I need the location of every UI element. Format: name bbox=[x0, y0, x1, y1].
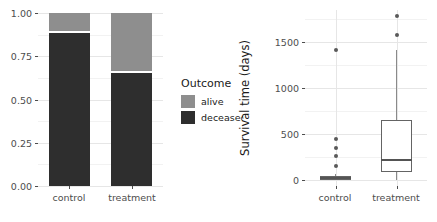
box-ytick-mark bbox=[302, 134, 305, 135]
bar-gridline-major bbox=[38, 186, 163, 187]
boxplot-xtick-label-treatment: treatment bbox=[372, 192, 420, 203]
box-ytick-label: 1500 bbox=[275, 37, 299, 48]
boxplot-group-control[interactable] bbox=[320, 10, 352, 186]
box-iqr-rect[interactable] bbox=[381, 120, 413, 172]
bar-ytick-mark bbox=[35, 56, 38, 57]
bar-segment-alive[interactable] bbox=[111, 13, 152, 71]
boxplot-plot-area bbox=[305, 10, 427, 186]
bar-ytick-label: 0.25 bbox=[11, 137, 32, 148]
legend: Outcome alive deceased bbox=[181, 77, 243, 127]
box-outlier-point[interactable] bbox=[395, 33, 399, 37]
bar-stack-treatment[interactable] bbox=[111, 13, 152, 186]
box-ytick-label: 0 bbox=[293, 174, 299, 185]
box-ytick-label: 500 bbox=[281, 128, 299, 139]
bar-ytick-mark bbox=[35, 186, 38, 187]
legend-label-alive: alive bbox=[201, 96, 224, 107]
bar-xtick-label-control: control bbox=[53, 192, 86, 203]
bar-xtick-mark bbox=[69, 186, 70, 189]
box-median-line bbox=[381, 159, 413, 161]
box-xtick-mark bbox=[336, 186, 337, 189]
stacked-bar-panel: control treatment 0.000.250.500.751.00 bbox=[0, 0, 175, 222]
box-median-line bbox=[320, 177, 352, 179]
boxplot-xtick-label-control: control bbox=[319, 192, 352, 203]
bar-ytick-label: 0.00 bbox=[11, 181, 32, 192]
legend-swatch-deceased bbox=[181, 111, 195, 124]
bar-xtick-mark bbox=[132, 186, 133, 189]
bar-ytick-label: 1.00 bbox=[11, 8, 32, 19]
boxplot-panel: Survival time (days) control treatment 0… bbox=[243, 0, 437, 222]
box-xtick-mark bbox=[397, 186, 398, 189]
box-outlier-point[interactable] bbox=[334, 164, 338, 168]
bar-plot-area bbox=[38, 13, 163, 186]
box-outlier-point[interactable] bbox=[334, 137, 338, 141]
bar-segment-alive[interactable] bbox=[49, 13, 90, 31]
box-outlier-point[interactable] bbox=[334, 48, 338, 52]
bar-xtick-label-treatment: treatment bbox=[108, 192, 156, 203]
bar-segment-deceased[interactable] bbox=[49, 33, 90, 186]
bar-ytick-mark bbox=[35, 143, 38, 144]
legend-item-deceased[interactable]: deceased bbox=[181, 111, 243, 124]
bar-segment-deceased[interactable] bbox=[111, 73, 152, 186]
box-upper-whisker bbox=[396, 50, 397, 120]
bar-ytick-mark bbox=[35, 100, 38, 101]
bar-stack-control[interactable] bbox=[49, 13, 90, 186]
bar-ytick-mark bbox=[35, 13, 38, 14]
box-ytick-mark bbox=[302, 88, 305, 89]
figure-panel-container: control treatment 0.000.250.500.751.00 O… bbox=[0, 0, 437, 222]
boxplot-y-axis-title: Survival time (days) bbox=[238, 40, 252, 156]
box-outlier-point[interactable] bbox=[395, 14, 399, 18]
box-ytick-mark bbox=[302, 180, 305, 181]
legend-item-alive[interactable]: alive bbox=[181, 95, 243, 108]
bar-ytick-label: 0.75 bbox=[11, 51, 32, 62]
legend-swatch-alive bbox=[181, 95, 195, 108]
box-lower-whisker bbox=[396, 172, 397, 179]
box-outlier-point[interactable] bbox=[334, 154, 338, 158]
box-ytick-label: 1000 bbox=[275, 82, 299, 93]
box-ytick-mark bbox=[302, 42, 305, 43]
box-outlier-point[interactable] bbox=[334, 146, 338, 150]
legend-title: Outcome bbox=[181, 77, 243, 90]
bar-ytick-label: 0.50 bbox=[11, 94, 32, 105]
